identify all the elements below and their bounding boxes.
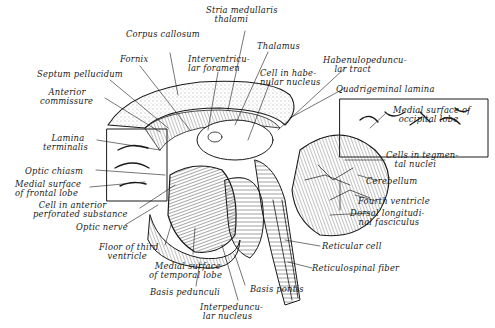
label-thalamus: Thalamus [257, 42, 300, 51]
label-stria-medullaris: Stria medullaris thalami [206, 6, 278, 23]
label-optic-chiasm: Optic chiasm [25, 167, 83, 176]
label-medial-surface-frontal-lobe: Medial surface of frontal lobe [15, 180, 81, 197]
label-basis-pedunculi: Basis pedunculi [150, 288, 220, 297]
label-lamina-terminalis: Lamina terminalis [43, 134, 88, 151]
label-floor-third-ventricle: Floor of third ventricle [99, 243, 159, 260]
label-optic-nerve: Optic nerve [76, 223, 128, 232]
label-habenulopeduncular-tract: Habenulopeduncu- lar tract [323, 56, 407, 73]
brain-diagram: Stria medullaris thalami Corpus callosum… [0, 0, 495, 328]
label-dorsal-longitudinal-fasciculus: Dorsal longitudi- nal fasciculus [350, 209, 425, 226]
label-reticulospinal-fiber: Reticulospinal fiber [312, 264, 399, 273]
label-septum-pellucidum: Septum pellucidum [37, 70, 123, 79]
label-anterior-commissure: Anterior commissure [40, 88, 93, 105]
label-fornix: Fornix [120, 55, 148, 64]
label-cell-habenular-nucleus: Cell in habe- nular nucleus [260, 69, 321, 86]
label-basis-pontis: Basis pontis [250, 285, 304, 294]
label-medial-surface-occipital-lobe: Medial surface of occipital lobe [393, 106, 471, 123]
label-interpeduncular-nucleus: Interpeduncu- lar nucleus [200, 303, 263, 320]
label-quadrigeminal-lamina: Quadrigeminal lamina [336, 85, 435, 94]
label-medial-surface-temporal-lobe: Medial surface of temporal lobe [149, 262, 222, 279]
label-cerebellum: Cerebellum [366, 177, 417, 186]
label-cell-anterior-perforated-substance: Cell in anterior perforated substance [33, 201, 128, 218]
label-fourth-ventricle: Fourth ventricle [358, 197, 430, 206]
label-corpus-callosum: Corpus callosum [126, 30, 200, 39]
label-cells-tegmental-nuclei: Cells in tegmen- tal nuclei [386, 151, 458, 168]
label-reticular-cell: Reticular cell [322, 242, 382, 251]
label-interventricular-foramen: Interventricu- lar foramen [188, 55, 250, 72]
